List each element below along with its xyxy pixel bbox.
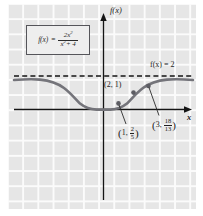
point-label-y-denominator: 13 (164, 126, 172, 133)
formula-function-name: f(x) (38, 36, 48, 44)
formula-denominator-tail: + 4 (66, 40, 76, 48)
point-marker-2 (131, 90, 136, 95)
point-label-y-numerator: 18 (164, 118, 172, 125)
figure-container: f(x) = 2x2 x2+ 4 f(x) x f(x) = 2 (2, 1) … (0, 0, 203, 216)
formula-box: f(x) = 2x2 x2+ 4 (26, 25, 90, 55)
point-label-y-denominator: 5 (130, 134, 134, 141)
point-label-close-paren: ) (135, 128, 139, 139)
point-label-1-two-fifths: ( 1 , 2 5 ) (118, 126, 139, 140)
formula-denominator: x2+ 4 (58, 41, 77, 49)
point-label-3-eighteen-thirteenths: ( 3 , 18 13 ) (152, 118, 176, 132)
x-axis-label: x (187, 113, 191, 122)
leader-line-point-3 (149, 88, 159, 116)
asymptote-label: f(x) = 2 (150, 61, 175, 69)
point-label-2-1: (2, 1) (104, 81, 121, 89)
point-label-comma: , (160, 121, 164, 129)
point-label-y-fraction: 2 5 (130, 126, 134, 140)
point-label-y-numerator: 2 (130, 126, 134, 133)
point-label-close-paren: ) (172, 120, 176, 131)
point-label-comma: , (126, 129, 130, 137)
point-label-y-fraction: 18 13 (164, 118, 172, 132)
y-axis (100, 13, 106, 200)
point-marker-3 (146, 84, 151, 89)
formula-fraction: 2x2 x2+ 4 (58, 32, 77, 48)
y-axis-label: f(x) (110, 6, 122, 15)
point-marker-1 (116, 101, 121, 106)
formula-equals-sign: = (51, 36, 55, 44)
formula-numerator-exponent: 2 (70, 30, 72, 35)
